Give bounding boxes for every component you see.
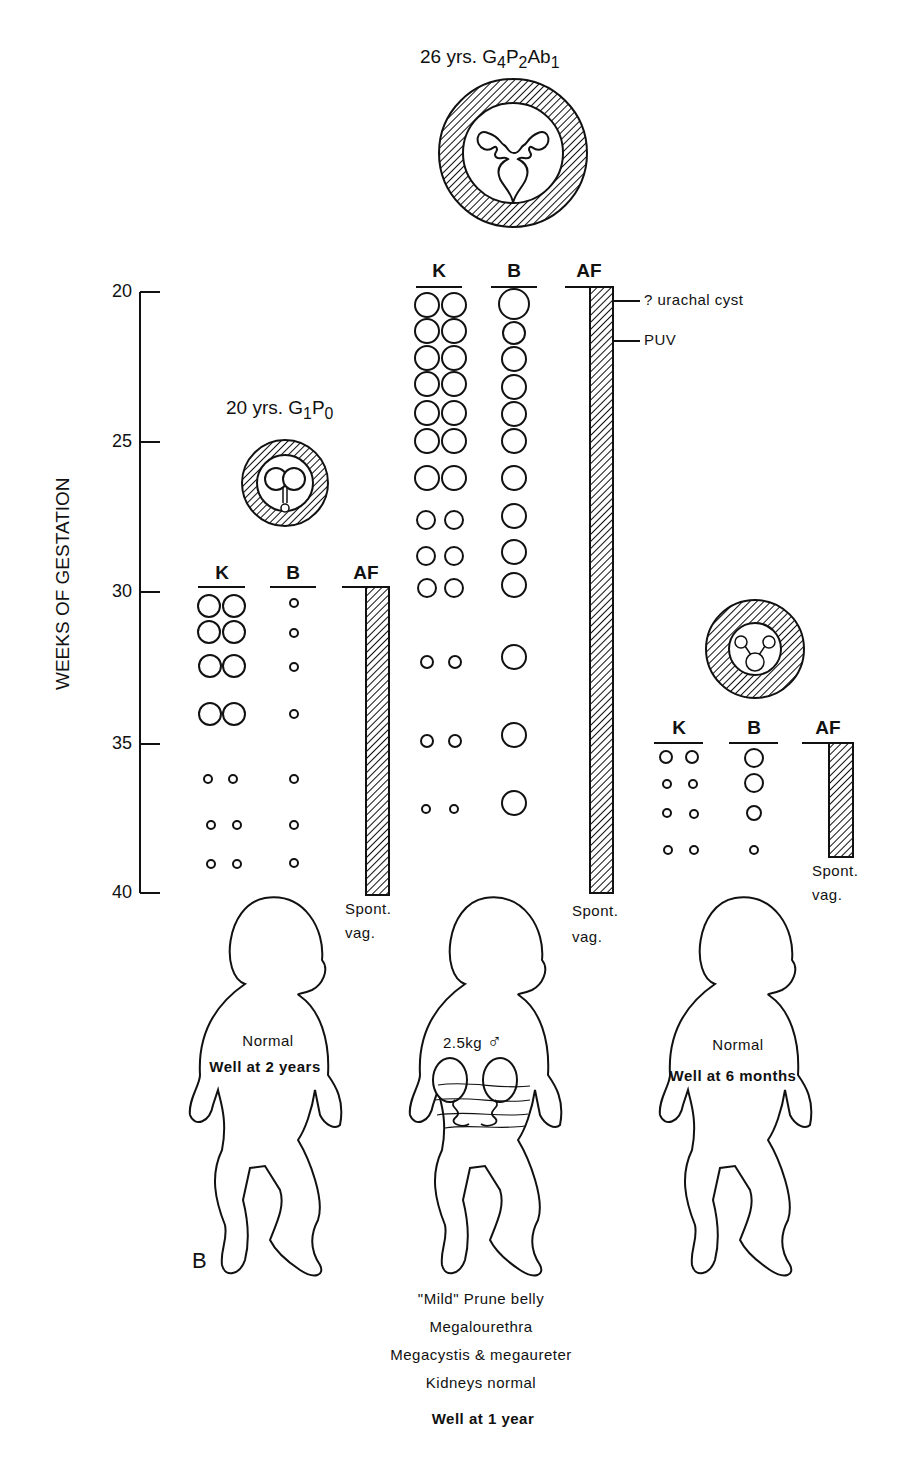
baby-outline-case3 (660, 897, 812, 1275)
annotation-puv: PUV (644, 331, 676, 348)
case1-header-af: AF (353, 562, 378, 584)
case2-delivery-line1: Spont. (572, 902, 618, 919)
tick-40: 40 (92, 882, 132, 903)
baby-outline-case1 (190, 897, 342, 1275)
tick-20: 20 (92, 281, 132, 302)
case3-header-k: K (672, 717, 686, 739)
diagram-canvas (0, 0, 914, 1460)
case2-finding-4: Kidneys normal (426, 1374, 536, 1391)
case3-header-b: B (747, 717, 761, 739)
case2-title: 26 yrs. G4P2Ab1 (420, 46, 559, 72)
case1-delivery-line1: Spont. (345, 900, 391, 917)
uterus-icon-case2 (439, 79, 587, 227)
case1-header-k: K (215, 562, 229, 584)
case2-header-af: AF (576, 260, 601, 282)
panel-label: B (192, 1248, 207, 1274)
case2-columns (415, 287, 640, 893)
case1-delivery-line2: vag. (345, 924, 375, 941)
case3-outcome-note: Normal (712, 1036, 763, 1053)
case2-outcome: Well at 1 year (432, 1410, 535, 1427)
case2-finding-1: "Mild" Prune belly (418, 1290, 544, 1307)
case2-header-b: B (507, 260, 521, 282)
case2-header-k: K (432, 260, 446, 282)
case2-delivery-line2: vag. (572, 928, 602, 945)
uterus-icon-case3 (706, 600, 804, 698)
case2-finding-2: Megalourethra (429, 1318, 532, 1335)
male-symbol-icon: ♂ (487, 1030, 503, 1052)
case3-delivery-line1: Spont. (812, 862, 858, 879)
case3-header-af: AF (815, 717, 840, 739)
case3-columns (654, 743, 853, 857)
tick-30: 30 (92, 581, 132, 602)
gestation-axis (140, 292, 160, 893)
uterus-icon-case1 (242, 440, 328, 526)
case1-columns (198, 587, 389, 895)
case2-finding-3: Megacystis & megaureter (390, 1346, 572, 1363)
case1-outcome-note: Normal (242, 1032, 293, 1049)
axis-title: WEEKS OF GESTATION (52, 477, 74, 690)
annotation-urachal-cyst: ? urachal cyst (644, 291, 744, 308)
tick-35: 35 (92, 733, 132, 754)
case1-title: 20 yrs. G1P0 (226, 397, 333, 423)
case2-weight: 2.5kg ♂ (443, 1030, 502, 1053)
baby-outline-case2 (410, 897, 562, 1275)
case3-delivery-line2: vag. (812, 886, 842, 903)
case1-outcome: Well at 2 years (209, 1058, 320, 1075)
case1-header-b: B (286, 562, 300, 584)
tick-25: 25 (92, 431, 132, 452)
case3-outcome: Well at 6 months (670, 1067, 797, 1084)
